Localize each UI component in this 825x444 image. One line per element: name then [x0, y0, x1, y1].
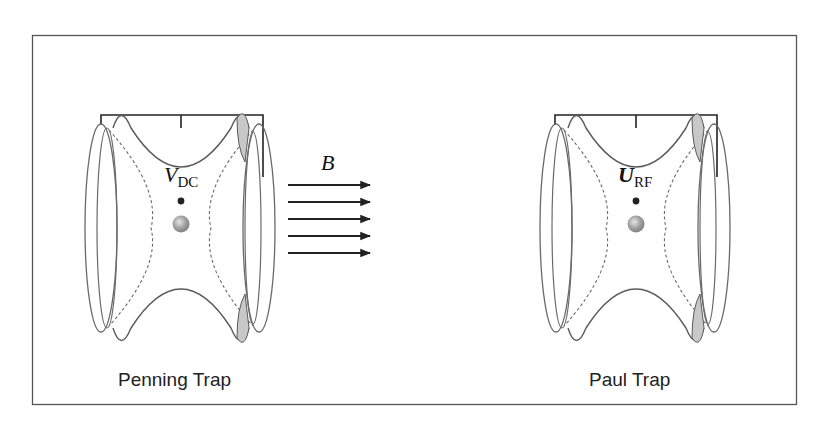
penning-trap-label: Penning Trap — [118, 369, 231, 391]
paul-voltage-label: URF — [618, 162, 652, 188]
magnetic-field-label: B — [321, 150, 334, 176]
paul-trap-label: Paul Trap — [589, 369, 670, 391]
penning-voltage-label: VDC — [164, 162, 198, 188]
